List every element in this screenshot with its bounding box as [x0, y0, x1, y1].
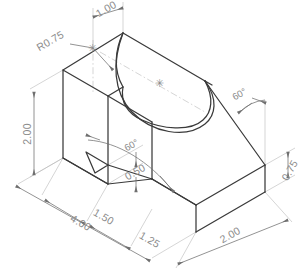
- dim-label-base-thickness: 0.75: [279, 158, 300, 183]
- base-top-right-edge: [196, 165, 265, 205]
- dim-label-notch-offset: 1.50: [92, 206, 117, 227]
- slot-outer-curve: [116, 33, 214, 132]
- center-marks: ✳ ✳: [88, 42, 164, 89]
- dim-label-angle-slope: 60°: [230, 86, 248, 103]
- center-mark-radius: ✳: [88, 42, 97, 54]
- dimline-angle-slope-a: [238, 103, 252, 113]
- dimline-notch-width: [90, 226, 130, 249]
- dim-label-depth-right: 2.00: [218, 224, 243, 245]
- arc-angle-slope: [240, 100, 265, 112]
- dimline-angle-notch-a: [86, 135, 100, 140]
- slot-front-wall: [116, 33, 123, 87]
- part-outline: [63, 33, 265, 232]
- dim-label-notch-depth: 0.50: [123, 161, 148, 182]
- ext-h-top: [30, 70, 63, 89]
- dim-label-overall-length: 4.00: [69, 212, 94, 233]
- dim-label-radius-top: R0.75: [34, 28, 66, 53]
- ext-len-left: [18, 158, 63, 184]
- base-front-right-edge: [196, 192, 265, 232]
- slot-inner-curve: [122, 81, 210, 128]
- left-face: [63, 70, 108, 184]
- top-ridge-edge: [123, 33, 205, 81]
- ext-d200-b: [265, 192, 292, 222]
- dimline-angle-notch-b: [160, 176, 174, 192]
- center-mark-slot: ✳: [155, 77, 164, 89]
- v-notch: [86, 152, 108, 173]
- drawing-sheet: ✳ ✳ 1.00 R0.75 2.00 4.00 1.50 1.25 0.50 …: [0, 0, 308, 276]
- ext-150-a: [42, 158, 63, 195]
- dim-label-height-left: 2.00: [21, 123, 33, 145]
- isometric-drawing-canvas: ✳ ✳ 1.00 R0.75 2.00 4.00 1.50 1.25 0.50 …: [0, 0, 308, 276]
- dim-label-notch-width: 1.25: [138, 229, 163, 250]
- base-back-left-edge: [63, 158, 108, 184]
- dim-label-top-width: 1.00: [94, 0, 119, 19]
- ext-d200-a: [176, 232, 196, 268]
